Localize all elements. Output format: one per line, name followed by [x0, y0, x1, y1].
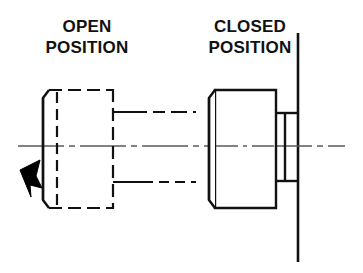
technical-diagram: OPEN POSITION CLOSED POSITION: [0, 0, 363, 273]
diagram-canvas: OPEN POSITION CLOSED POSITION: [0, 0, 363, 273]
closed-body-outline: [215, 90, 276, 208]
label-open-line2: POSITION: [46, 38, 129, 57]
label-closed-line1: CLOSED: [214, 17, 286, 36]
label-closed-line2: POSITION: [209, 38, 292, 57]
label-open-line1: OPEN: [63, 17, 112, 36]
